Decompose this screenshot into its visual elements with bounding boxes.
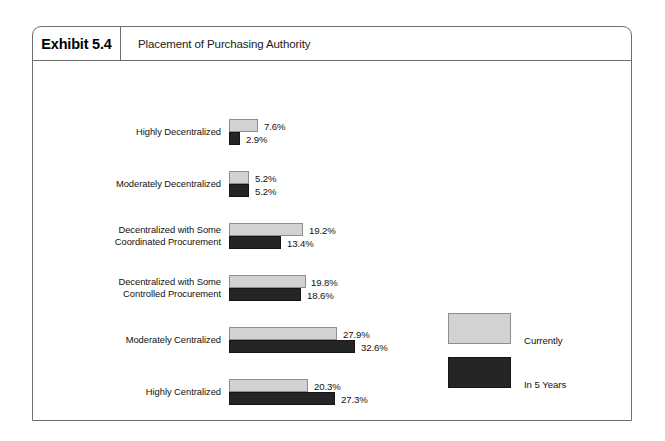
bar-row: Decentralized with Some Coordinated Proc… xyxy=(33,219,631,253)
bar-value-in-5-years: 5.2% xyxy=(255,185,276,196)
bar-value-currently: 7.6% xyxy=(264,120,285,131)
legend-label-in-5-years: In 5 Years xyxy=(524,379,566,390)
exhibit-title: Placement of Purchasing Authority xyxy=(138,38,311,50)
bar-in-5-years xyxy=(229,288,301,301)
exhibit-header: Exhibit 5.4 Placement of Purchasing Auth… xyxy=(33,27,631,61)
bar-in-5-years xyxy=(229,184,249,197)
bar-in-5-years xyxy=(229,392,335,405)
bar-currently xyxy=(229,327,337,340)
legend-swatch-in-5-years xyxy=(448,357,511,388)
bar-currently xyxy=(229,275,306,288)
bar-row: Highly Decentralized 7.6% 2.9% xyxy=(33,115,631,149)
bar-currently xyxy=(229,171,249,184)
bar-value-currently: 19.2% xyxy=(309,224,336,235)
bar-value-currently: 19.8% xyxy=(311,276,338,287)
legend-swatch-currently xyxy=(448,313,511,344)
category-label: Decentralized with Some Controlled Procu… xyxy=(21,276,221,299)
category-label: Highly Decentralized xyxy=(21,126,221,138)
bar-value-in-5-years: 18.6% xyxy=(307,289,334,300)
category-label: Moderately Decentralized xyxy=(21,178,221,190)
category-label: Decentralized with Some Coordinated Proc… xyxy=(21,224,221,247)
bar-currently xyxy=(229,223,303,236)
exhibit-number: Exhibit 5.4 xyxy=(41,36,111,52)
bar-value-in-5-years: 32.6% xyxy=(361,341,388,352)
bar-value-in-5-years: 13.4% xyxy=(287,237,314,248)
category-label: Moderately Centralized xyxy=(21,334,221,346)
bar-in-5-years xyxy=(229,132,240,145)
legend-label-currently: Currently xyxy=(524,335,562,346)
bar-value-currently: 20.3% xyxy=(314,380,341,391)
bar-value-in-5-years: 27.3% xyxy=(341,393,368,404)
bar-value-in-5-years: 2.9% xyxy=(246,133,267,144)
bar-currently xyxy=(229,119,258,132)
bar-value-currently: 27.9% xyxy=(343,328,370,339)
category-label: Highly Centralized xyxy=(21,386,221,398)
bar-in-5-years xyxy=(229,236,281,249)
chart-plot-area: Highly Decentralized 7.6% 2.9% Moderatel… xyxy=(33,61,631,420)
bar-in-5-years xyxy=(229,340,355,353)
bar-currently xyxy=(229,379,308,392)
bar-row: Moderately Decentralized 5.2% 5.2% xyxy=(33,167,631,201)
bar-value-currently: 5.2% xyxy=(255,172,276,183)
exhibit-number-cell: Exhibit 5.4 xyxy=(33,27,121,60)
bar-row: Decentralized with Some Controlled Procu… xyxy=(33,271,631,305)
exhibit-frame: Exhibit 5.4 Placement of Purchasing Auth… xyxy=(32,26,632,421)
exhibit-title-cell: Placement of Purchasing Authority xyxy=(121,27,631,60)
